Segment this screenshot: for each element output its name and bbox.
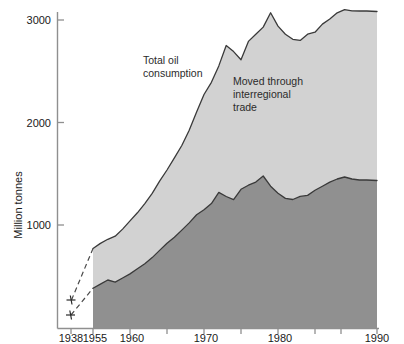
x-tick-label-1970: 1970	[194, 332, 218, 344]
x-tick-label-1955: 1955	[83, 332, 107, 344]
total-oil-consumption-label-line1: Total oil	[143, 54, 179, 66]
y-tick-label-2000: 2000	[27, 117, 51, 129]
interregional-trade-label-line3: trade	[233, 101, 257, 113]
interregional-trade-label-line1: Moved through	[233, 75, 303, 87]
interregional-trade-label-line2: interregional	[233, 88, 291, 100]
y-axis-title: Million tonnes	[12, 171, 24, 239]
y-tick-label-1000: 1000	[27, 219, 51, 231]
x-tick-label-1960: 1960	[120, 332, 144, 344]
x-tick-label-1980: 1980	[268, 332, 292, 344]
total-oil-consumption-label-line2: consumption	[143, 67, 203, 79]
x-tick-label-1990: 1990	[365, 332, 389, 344]
x-tick-label-1938: 1938	[59, 332, 83, 344]
chart-figure: 3000 2000 1000 Million tonnes 1938 1955 …	[0, 0, 404, 344]
oil-consumption-area-chart: 3000 2000 1000 Million tonnes 1938 1955 …	[0, 0, 404, 344]
y-tick-label-3000: 3000	[27, 14, 51, 26]
